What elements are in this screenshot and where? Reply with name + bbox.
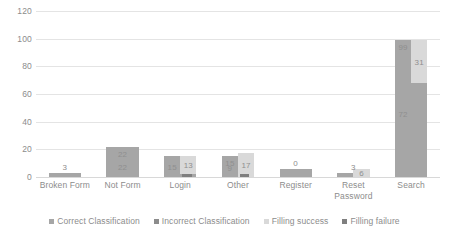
- y-axis-tick-label: 120: [2, 6, 32, 16]
- bar-stack: [36, 11, 94, 177]
- bar-segment-filling-failure[interactable]: [240, 174, 250, 177]
- x-axis-tick-label: Other: [209, 180, 267, 191]
- bar-chart: 120100806040200 32222151315917036997231 …: [0, 0, 449, 238]
- legend-label: Filling failure: [350, 216, 399, 226]
- x-axis-tick-label: Search: [382, 180, 440, 191]
- bar-segment-filling-success[interactable]: [180, 156, 196, 174]
- x-axis-tick-label: Login: [151, 180, 209, 191]
- legend-swatch-icon: [154, 219, 159, 224]
- bar-segment-filling-success[interactable]: [411, 40, 427, 83]
- legend-label: Incorrect Classification: [162, 216, 250, 226]
- bar-stack: [267, 11, 325, 177]
- y-axis-tick-label: 40: [2, 117, 32, 127]
- bar-stack: [151, 11, 209, 177]
- x-axis-tick-label: Register: [267, 180, 325, 191]
- plot-area: 32222151315917036997231: [36, 11, 440, 177]
- x-axis-tick-label: Not Form: [94, 180, 152, 191]
- bar-group[interactable]: 0: [267, 11, 325, 177]
- bar-stack: [94, 11, 152, 177]
- bar-group[interactable]: 36: [325, 11, 383, 177]
- chart-legend: Correct ClassificationIncorrect Classifi…: [0, 212, 449, 230]
- legend-swatch-icon: [264, 219, 269, 224]
- bar-segment-correct-classification[interactable]: [280, 169, 312, 177]
- bar-group[interactable]: 1513: [151, 11, 209, 177]
- legend-swatch-icon: [342, 219, 347, 224]
- x-axis-tick-label: Broken Form: [36, 180, 94, 191]
- bar-group[interactable]: 997231: [382, 11, 440, 177]
- legend-item[interactable]: Filling failure: [342, 216, 399, 226]
- bar-segment-correct-classification[interactable]: [49, 173, 81, 177]
- legend-item[interactable]: Correct Classification: [49, 216, 140, 226]
- bar-stack: [325, 11, 383, 177]
- bar-segment-correct-classification[interactable]: [106, 147, 138, 177]
- legend-label: Filling success: [272, 216, 329, 226]
- x-axis-labels: Broken FormNot FormLoginOtherRegisterRes…: [36, 180, 440, 210]
- bar-group[interactable]: 3: [36, 11, 94, 177]
- bar-group[interactable]: 15917: [209, 11, 267, 177]
- legend-swatch-icon: [49, 219, 54, 224]
- bar-stack: [382, 11, 440, 177]
- y-axis-tick-label: 20: [2, 144, 32, 154]
- legend-item[interactable]: Filling success: [264, 216, 329, 226]
- y-axis-tick-label: 60: [2, 89, 32, 99]
- bar-segment-filling-failure[interactable]: [182, 174, 192, 177]
- y-axis-tick-label: 100: [2, 34, 32, 44]
- bar-segment-filling-success[interactable]: [353, 169, 369, 177]
- y-axis-tick-label: 80: [2, 61, 32, 71]
- y-axis-tick-label: 0: [2, 172, 32, 182]
- legend-label: Correct Classification: [57, 216, 140, 226]
- bar-group[interactable]: 2222: [94, 11, 152, 177]
- x-axis-tick-label: Reset Password: [325, 180, 383, 202]
- bar-stack: [209, 11, 267, 177]
- legend-item[interactable]: Incorrect Classification: [154, 216, 250, 226]
- gridline: [36, 177, 440, 178]
- bars-layer: 32222151315917036997231: [36, 11, 440, 177]
